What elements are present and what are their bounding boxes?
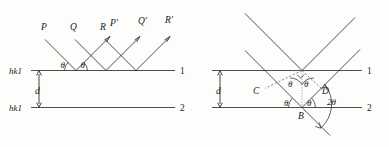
right-angle-marker-A: [297, 75, 304, 79]
left-label-Q: Q: [70, 22, 77, 32]
bragg-diffraction-figure: P Q R P′ Q′ R′ θ θ hk1 hk1 d 1 2: [0, 0, 389, 147]
right-panel: d C D B θ θ θ θ 2θ 1 2: [212, 14, 372, 136]
right-arc-theta-lower-right: [312, 98, 316, 107]
right-arc-theta-lower-left: [289, 98, 293, 107]
left-arc-theta-incident: [65, 62, 69, 70]
left-label-theta-reflected: θ: [81, 60, 86, 70]
left-line-number-2: 2: [180, 103, 185, 113]
right-label-d: d: [216, 86, 221, 96]
right-incident-ray-lower: [245, 51, 302, 108]
right-label-C: C: [253, 86, 260, 96]
left-label-P-prime: P′: [109, 18, 119, 28]
left-panel: P Q R P′ Q′ R′ θ θ hk1 hk1 d 1 2: [9, 15, 185, 113]
left-label-hkl-bottom: hk1: [9, 103, 22, 113]
left-reflected-ray-Q-prime: [106, 37, 140, 71]
right-label-D: D: [321, 86, 329, 96]
right-label-theta-upper-right: θ: [304, 79, 309, 89]
right-label-two-theta: 2θ: [327, 97, 337, 107]
left-reflected-ray-R-prime: [136, 37, 170, 71]
right-label-theta-lower-left: θ: [284, 98, 289, 108]
left-label-d: d: [35, 86, 40, 96]
left-label-R-prime: R′: [164, 15, 174, 25]
left-label-R: R: [99, 22, 106, 32]
right-label-B: B: [298, 111, 304, 121]
right-line-number-2: 2: [367, 103, 372, 113]
right-incident-ray-upper: [245, 14, 302, 71]
left-label-P: P: [40, 22, 47, 32]
left-line-number-1: 1: [180, 66, 185, 76]
left-label-hkl-top: hk1: [9, 66, 22, 76]
figure-canvas: P Q R P′ Q′ R′ θ θ hk1 hk1 d 1 2: [0, 0, 389, 147]
right-line-number-1: 1: [367, 66, 372, 76]
left-incident-ray-R: [105, 40, 136, 71]
left-label-theta-incident: θ: [61, 60, 66, 70]
right-label-theta-upper-left: θ: [288, 79, 293, 89]
right-label-theta-lower-right: θ: [307, 98, 312, 108]
left-label-Q-prime: Q′: [138, 16, 148, 26]
right-transmitted-ray: [302, 108, 330, 136]
